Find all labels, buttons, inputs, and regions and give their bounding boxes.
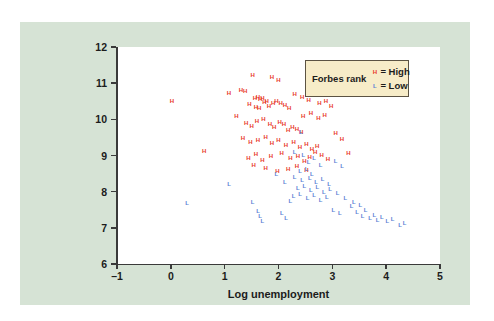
- data-point-high: H: [296, 153, 300, 159]
- data-point-high: H: [261, 116, 265, 122]
- data-point-high: H: [256, 137, 260, 143]
- data-point-high: H: [276, 77, 280, 83]
- data-point-high: H: [257, 105, 261, 111]
- data-point-high: H: [253, 95, 257, 101]
- legend-title: Forbes rank: [312, 73, 366, 84]
- data-point-high: H: [252, 162, 256, 168]
- data-point-high: H: [272, 124, 276, 130]
- x-tick-label: 4: [374, 270, 398, 282]
- y-tick-label: 7: [85, 222, 107, 234]
- y-tick-label: 8: [85, 186, 107, 198]
- data-point-high: H: [302, 158, 306, 164]
- data-point-high: H: [317, 100, 321, 106]
- data-point-high: H: [274, 98, 278, 104]
- data-point-low: L: [361, 213, 365, 219]
- data-point-high: H: [263, 165, 267, 171]
- x-tick-label: 2: [267, 270, 291, 282]
- data-point-low: L: [308, 175, 312, 181]
- y-tick-mark: [111, 46, 116, 48]
- data-point-high: H: [260, 95, 264, 101]
- data-point-high: H: [301, 113, 305, 119]
- data-point-low: L: [301, 152, 305, 158]
- legend-marker-high-icon: H: [371, 69, 378, 75]
- data-point-high: H: [310, 146, 314, 152]
- data-point-low: L: [380, 214, 384, 220]
- data-point-high: H: [329, 103, 333, 109]
- data-point-high: H: [280, 150, 284, 156]
- data-point-high: H: [227, 90, 231, 96]
- legend-label-low: = Low: [380, 80, 407, 91]
- x-tick-mark: [439, 264, 441, 269]
- data-point-high: H: [254, 104, 258, 110]
- data-point-high: H: [277, 119, 281, 125]
- data-point-high: H: [256, 94, 260, 100]
- x-tick-mark: [278, 264, 280, 269]
- x-tick-mark: [116, 264, 118, 269]
- data-point-low: L: [352, 199, 356, 205]
- data-point-high: H: [288, 155, 292, 161]
- data-point-low: L: [314, 179, 318, 185]
- data-point-high: H: [269, 153, 273, 159]
- data-point-low: L: [336, 190, 340, 196]
- data-point-low: L: [296, 185, 300, 191]
- data-point-high: H: [260, 157, 264, 163]
- data-point-low: L: [299, 129, 303, 135]
- data-point-high: H: [234, 113, 238, 119]
- data-point-low: L: [284, 215, 288, 221]
- y-axis-line: [116, 47, 118, 265]
- data-point-high: H: [239, 87, 243, 93]
- data-point-high: H: [306, 97, 310, 103]
- data-point-low: L: [368, 215, 372, 221]
- data-point-high: H: [291, 139, 295, 145]
- x-tick-label: 0: [159, 270, 183, 282]
- data-point-high: H: [244, 120, 248, 126]
- data-point-high: H: [323, 112, 327, 118]
- x-tick-mark: [170, 264, 172, 269]
- data-point-low: L: [298, 168, 302, 174]
- data-point-low: L: [298, 191, 302, 197]
- data-point-high: H: [313, 149, 317, 155]
- data-point-high: H: [287, 105, 291, 111]
- y-tick-mark: [111, 227, 116, 229]
- x-tick-mark: [332, 264, 334, 269]
- data-point-low: L: [275, 171, 279, 177]
- data-point-high: H: [275, 168, 279, 174]
- data-point-low: L: [343, 195, 347, 201]
- data-point-high: H: [304, 167, 308, 173]
- data-point-low: L: [340, 163, 344, 169]
- data-point-high: H: [292, 91, 296, 97]
- data-point-high: H: [262, 99, 266, 105]
- data-point-high: H: [268, 121, 272, 127]
- data-point-high: H: [319, 152, 323, 158]
- data-point-low: L: [391, 216, 395, 222]
- data-point-low: L: [261, 218, 265, 224]
- x-tick-mark: [385, 264, 387, 269]
- data-point-high: H: [267, 103, 271, 109]
- data-point-high: H: [282, 121, 286, 127]
- data-point-low: L: [227, 181, 231, 187]
- data-point-low: L: [307, 159, 311, 165]
- data-point-low: L: [288, 198, 292, 204]
- data-point-high: H: [300, 94, 304, 100]
- data-point-high: H: [243, 88, 247, 94]
- data-point-low: L: [280, 210, 284, 216]
- data-point-high: H: [326, 156, 330, 162]
- x-tick-label: 1: [213, 270, 237, 282]
- data-point-high: H: [249, 123, 253, 129]
- data-point-low: L: [355, 209, 359, 215]
- data-point-low: L: [325, 194, 329, 200]
- data-point-high: H: [298, 144, 302, 150]
- data-point-low: L: [372, 212, 376, 218]
- y-tick-label: 12: [85, 41, 107, 53]
- data-point-low: L: [376, 217, 380, 223]
- data-point-low: L: [312, 192, 316, 198]
- data-point-high: H: [346, 150, 350, 156]
- data-point-high: H: [340, 136, 344, 142]
- data-point-high: H: [254, 151, 258, 157]
- data-point-low: L: [258, 213, 262, 219]
- x-axis-title: Log unemployment: [117, 288, 440, 300]
- data-point-low: L: [302, 183, 306, 189]
- legend-item-high: H = High: [371, 66, 409, 77]
- data-point-high: H: [316, 115, 320, 121]
- data-point-high: H: [286, 127, 290, 133]
